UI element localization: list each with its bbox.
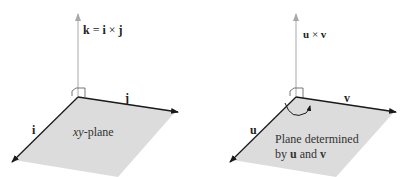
left-panel [12,14,178,177]
plane-label-line1: Plane determined [275,132,359,147]
k-label: k = i × j [83,24,123,36]
i-label: i [32,124,35,136]
j-label: j [125,92,129,104]
xy-plane-label: xy-plane [73,126,114,138]
v-symbol: v [321,28,327,40]
cross-sign: × [106,23,119,37]
k-symbol: k [83,23,90,37]
plane-label-line2: by u and v [275,147,359,162]
plane-determined-label: Plane determined by u and v [275,132,359,162]
and-text: and [297,147,320,161]
by-text: by [275,147,290,161]
plane-text: -plane [84,125,114,139]
v-symbol: v [320,147,326,161]
u-symbol: u [290,147,297,161]
u-label: u [250,124,257,136]
xy-text: xy [73,125,84,139]
v-label: v [344,92,350,104]
equals-sign: = [90,23,103,37]
cross-sign: × [309,28,321,40]
cross-product-figure: k = i × j j i xy-plane u × v v u Plane d… [0,0,406,177]
cross-product-label: u × v [303,29,326,40]
j-symbol: j [119,23,123,37]
